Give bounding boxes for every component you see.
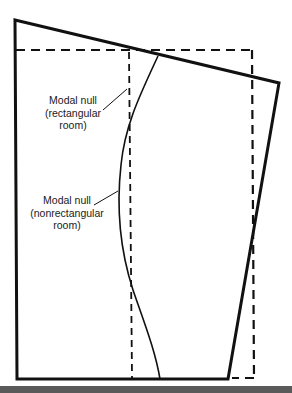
label-line: room) — [27, 219, 107, 232]
label-modal-null-nonrectangular: Modal null (nonrectangular room) — [27, 194, 107, 232]
label-line: Modal null — [38, 94, 108, 107]
modal-null-nonrectangular-curve — [119, 56, 160, 379]
modal-null-rectangular-line — [129, 52, 132, 378]
label-line: room) — [38, 119, 108, 132]
bottom-border-bar — [0, 386, 292, 393]
label-line: Modal null — [27, 194, 107, 207]
label-line: (rectangular — [38, 107, 108, 120]
label-modal-null-rectangular: Modal null (rectangular room) — [38, 94, 108, 132]
label-line: (nonrectangular — [27, 207, 107, 220]
